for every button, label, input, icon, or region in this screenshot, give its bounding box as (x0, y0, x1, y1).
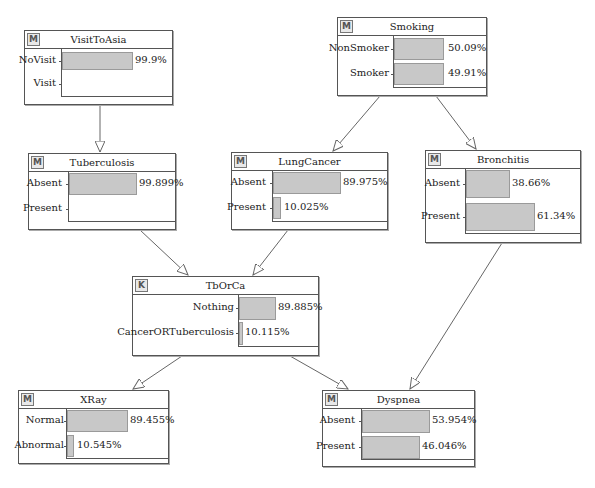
state-label: Absent (425, 177, 460, 188)
node-tuberculosis[interactable]: M Tuberculosis Absent 99.899% Present (28, 153, 176, 230)
node-title: VisitToAsia (70, 34, 126, 45)
monitor-badge-icon: M (234, 155, 247, 168)
probability-bar (239, 297, 276, 320)
node-header: M Bronchitis (426, 151, 580, 169)
state-label: Smoker (350, 67, 389, 78)
state-label: Present (227, 201, 266, 212)
probability-value: 50.09% (448, 42, 486, 53)
node-bronchitis[interactable]: M Bronchitis Absent 38.66% Present 61.34… (425, 150, 581, 243)
state-label: Abnormal (14, 439, 64, 450)
probability-value: 99.899% (139, 177, 184, 188)
probability-value: 89.885% (278, 301, 323, 312)
state-row: Visit (25, 75, 172, 93)
state-label: Present (421, 210, 460, 221)
monitor-badge-icon: M (27, 33, 40, 46)
edge-tuberculosis-tborca (140, 230, 188, 275)
state-label: CancerORTuberculosis (117, 326, 234, 337)
probability-value: 53.954% (432, 414, 477, 425)
tick (66, 209, 69, 210)
probability-value: 89.455% (130, 414, 175, 425)
state-row: Absent 38.66% (426, 170, 580, 198)
state-row: CancerORTuberculosis 10.115% (133, 322, 318, 345)
node-visittoasia[interactable]: M VisitToAsia NoVisit 99.9% Visit (24, 30, 173, 105)
state-row: Absent 53.954% (323, 410, 474, 433)
state-row: NonSmoker 50.09% (338, 38, 486, 60)
node-tborca[interactable]: K TbOrCa Nothing 89.885% CancerORTubercu… (132, 276, 319, 356)
node-header: M Dyspnea (323, 391, 474, 409)
node-header: M XRay (19, 391, 168, 409)
monitor-badge-icon: M (325, 393, 338, 406)
tick (59, 84, 62, 85)
state-row: NoVisit 99.9% (25, 52, 172, 70)
probability-bar (466, 170, 510, 198)
monitor-badge-icon: M (21, 393, 34, 406)
node-header: M VisitToAsia (25, 31, 172, 49)
node-header: M Tuberculosis (29, 154, 175, 172)
probability-value: 61.34% (537, 210, 575, 221)
node-xray[interactable]: M XRay Normal 89.455% Abnormal 10.545% (18, 390, 169, 464)
state-label: Present (23, 202, 62, 213)
probability-bar (69, 173, 137, 195)
probability-value: 10.545% (77, 439, 122, 450)
monitor-badge-icon: M (428, 153, 441, 166)
state-label: Visit (33, 77, 56, 88)
state-label: Nothing (193, 301, 234, 312)
node-dyspnea[interactable]: M Dyspnea Absent 53.954% Present 46.046% (322, 390, 475, 467)
edge-tborca-dyspnea (290, 356, 348, 389)
probability-bar (362, 410, 430, 433)
probability-bar (67, 410, 128, 432)
probability-value: 46.046% (422, 440, 467, 451)
state-row: Smoker 49.91% (338, 63, 486, 85)
probability-bar (466, 203, 535, 231)
edge-smoking-lungcancer (333, 96, 380, 151)
probability-value: 49.91% (448, 67, 486, 78)
state-row: Present 61.34% (426, 203, 580, 231)
state-row: Absent 89.975% (232, 172, 387, 194)
state-label: Absent (231, 176, 266, 187)
knowledge-badge-icon: K (135, 279, 148, 292)
node-smoking[interactable]: M Smoking NonSmoker 50.09% Smoker 49.91% (337, 17, 487, 96)
state-label: Present (316, 440, 355, 451)
state-row: Present (29, 198, 175, 220)
monitor-badge-icon: M (340, 20, 353, 33)
node-title: LungCancer (278, 156, 340, 167)
edge-tborca-xray (133, 356, 182, 389)
state-label: Absent (27, 177, 62, 188)
node-title: Smoking (390, 21, 434, 32)
node-lungcancer[interactable]: M LungCancer Absent 89.975% Present 10.0… (231, 152, 388, 230)
probability-bar (273, 172, 341, 194)
probability-bar (239, 322, 243, 345)
probability-value: 38.66% (512, 177, 550, 188)
edge-smoking-bronchitis (436, 96, 476, 149)
state-row: Present 46.046% (323, 436, 474, 459)
edge-bronchitis-dyspnea (410, 243, 502, 389)
state-row: Normal 89.455% (19, 410, 168, 432)
node-header: M Smoking (338, 18, 486, 36)
monitor-badge-icon: M (31, 156, 44, 169)
probability-value: 10.115% (245, 326, 290, 337)
node-title: Bronchitis (477, 154, 529, 165)
state-row: Present 10.025% (232, 197, 387, 219)
probability-bar (67, 435, 74, 457)
probability-bar (394, 38, 444, 60)
state-label: Absent (320, 414, 355, 425)
state-label: Normal (26, 414, 64, 425)
probability-bar (362, 436, 420, 459)
probability-bar (62, 52, 133, 70)
probability-bar (394, 63, 444, 85)
probability-value: 89.975% (343, 176, 388, 187)
node-header: K TbOrCa (133, 277, 318, 295)
node-title: Dyspnea (377, 394, 421, 405)
probability-value: 99.9% (135, 54, 167, 65)
state-row: Abnormal 10.545% (19, 435, 168, 457)
state-label: NoVisit (19, 54, 56, 65)
probability-bar (273, 197, 281, 219)
node-title: Tuberculosis (70, 157, 135, 168)
node-title: TbOrCa (206, 280, 246, 291)
node-title: XRay (80, 394, 107, 405)
node-header: M LungCancer (232, 153, 387, 171)
state-row: Absent 99.899% (29, 173, 175, 195)
state-label: NonSmoker (329, 42, 389, 53)
state-row: Nothing 89.885% (133, 297, 318, 320)
edge-lungcancer-tborca (253, 230, 288, 275)
